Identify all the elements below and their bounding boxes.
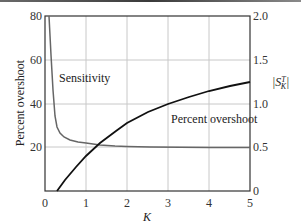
svg-text:1.5: 1.5 bbox=[253, 53, 268, 67]
svg-text:40: 40 bbox=[30, 97, 42, 111]
overshoot-label: Percent overshoot bbox=[171, 112, 258, 126]
svg-text:80: 80 bbox=[30, 9, 42, 23]
svg-text:2.0: 2.0 bbox=[253, 9, 268, 23]
svg-text:5: 5 bbox=[247, 196, 253, 210]
right-y-axis-label: |STK| bbox=[272, 75, 289, 91]
svg-text:2: 2 bbox=[124, 196, 130, 210]
svg-text:0: 0 bbox=[253, 184, 259, 198]
left-y-axis-label: Percent overshoot bbox=[13, 59, 27, 146]
x-axis-label: K bbox=[142, 210, 152, 223]
svg-text:0.5: 0.5 bbox=[253, 140, 268, 154]
sensitivity-label: Sensitivity bbox=[59, 71, 110, 85]
svg-text:0: 0 bbox=[42, 196, 48, 210]
svg-text:3: 3 bbox=[165, 196, 171, 210]
svg-text:1: 1 bbox=[83, 196, 89, 210]
chart: Sensitivity Percent overshoot 0 1 2 3 4 … bbox=[0, 0, 301, 223]
svg-text:4: 4 bbox=[206, 196, 212, 210]
left-y-tick-labels: 20 40 60 80 bbox=[30, 9, 42, 154]
svg-text:60: 60 bbox=[30, 53, 42, 67]
x-tick-labels: 0 1 2 3 4 5 bbox=[42, 196, 253, 210]
svg-text:1.0: 1.0 bbox=[253, 97, 268, 111]
right-y-tick-labels: 0 0.5 1.0 1.5 2.0 bbox=[253, 9, 268, 198]
grid bbox=[45, 16, 250, 191]
svg-text:20: 20 bbox=[30, 140, 42, 154]
